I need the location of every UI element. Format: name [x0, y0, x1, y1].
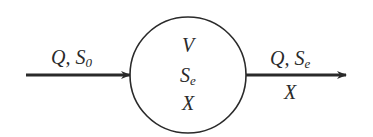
reactor-substrate-subscript: e	[190, 73, 196, 88]
inflow-label-main: Q, S	[51, 46, 85, 68]
reactor-volume-label: V	[182, 34, 197, 56]
outflow-label-main: Q, S	[270, 47, 304, 69]
reactor-biomass-label: X	[181, 92, 195, 114]
outflow-label: Q, Se	[270, 47, 310, 71]
outflow-biomass-label: X	[283, 81, 297, 103]
inflow-label: Q, S0	[51, 46, 92, 70]
outflow-label-subscript: e	[304, 56, 310, 71]
inflow-label-subscript: 0	[85, 55, 92, 70]
reactor-substrate-main: S	[180, 64, 190, 86]
reactor-substrate-label: Se	[180, 64, 196, 88]
reactor-diagram: Q, S0 V Se X Q, Se X	[0, 0, 373, 137]
